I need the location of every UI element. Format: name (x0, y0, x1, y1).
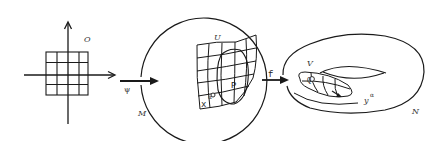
coord-y-superscript: α (370, 91, 374, 98)
torus-hole-upper (320, 67, 386, 74)
point-p-label: P (231, 81, 236, 91)
psi-label: ψ (124, 85, 130, 94)
domain-grid (46, 52, 88, 95)
torus-inner-curve (294, 93, 358, 104)
region-u-label: U (214, 33, 221, 42)
manifold-m: M U P x α (137, 18, 267, 141)
torus-n: V Q y α N (283, 34, 424, 116)
point-q-label: Q (307, 76, 311, 84)
domain-chart: O (24, 22, 115, 124)
f-label: f (268, 70, 273, 80)
psi-arrowhead-icon (150, 77, 159, 85)
edge-psi: ψ (120, 77, 159, 94)
diagram-canvas: O ψ M U P x α (0, 0, 446, 141)
region-u-grid (197, 35, 257, 109)
torus-outline (283, 34, 424, 113)
coord-x-label: x (201, 100, 206, 110)
f-arrowhead-icon (280, 76, 289, 84)
coord-x-superscript: α (208, 93, 212, 100)
domain-label: O (84, 35, 91, 44)
manifold-label: M (137, 109, 147, 118)
torus-label: N (411, 107, 420, 116)
region-v-label: V (307, 59, 314, 68)
coord-y-label: y (363, 96, 369, 105)
